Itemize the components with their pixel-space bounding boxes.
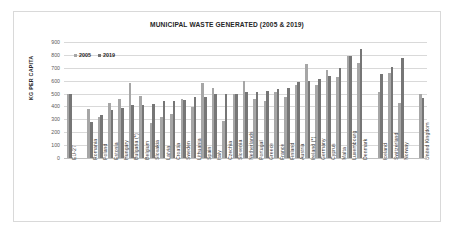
chart-title: MUNICIPAL WASTE GENERATED (2005 & 2019)	[14, 21, 440, 28]
y-axis-tick: 400	[40, 103, 60, 109]
x-axis-tick: Denmark	[362, 139, 368, 160]
chart-legend: 20052019	[74, 52, 115, 58]
y-axis-tick: 300	[40, 116, 60, 122]
x-axis-tick: Italy	[216, 150, 222, 160]
x-axis-tick: Germany	[320, 138, 326, 160]
chart-frame: MUNICIPAL WASTE GENERATED (2005 & 2019) …	[13, 11, 441, 222]
x-axis-tick: France	[279, 144, 285, 160]
bar-group	[282, 42, 292, 158]
x-axis-tick: Switzerland	[393, 133, 399, 160]
x-axis-tick: Slovakia	[154, 140, 160, 160]
legend-entry: 2005	[74, 52, 91, 58]
x-axis-tick: Iceland	[382, 143, 388, 160]
bars-layer	[64, 42, 427, 158]
x-axis-tick: Malta	[341, 147, 347, 160]
x-axis-tick: EU-27	[71, 145, 77, 160]
bar-group	[105, 42, 115, 158]
x-axis-tick: Austria	[299, 143, 305, 160]
x-axis-tick: Czechia	[227, 141, 233, 160]
x-axis-tick: Hungary	[123, 140, 129, 160]
bar-group	[292, 42, 302, 158]
x-axis-tick: Norway	[403, 142, 409, 160]
x-axis-tick: Sweden	[185, 141, 191, 160]
x-axis-tick: Lithuania	[196, 138, 202, 160]
bar-group	[209, 42, 219, 158]
x-axis-tick: Finland	[289, 143, 295, 160]
y-axis-tick: 800	[40, 52, 60, 58]
x-axis-tick: Slovenia	[237, 140, 243, 160]
legend-entry: 2019	[98, 52, 115, 58]
legend-swatch	[74, 54, 77, 57]
y-axis-tick: 600	[40, 78, 60, 84]
x-axis-tick: Luxembourg	[351, 131, 357, 160]
x-axis-tick: United Kingdom	[424, 122, 430, 160]
x-axis-tick: Belgium	[144, 141, 150, 160]
x-axis-tick: Netherlands	[248, 131, 254, 160]
x-axis-tick-labels: EU-27RomaniaPolandEstoniaHungaryBulgaria…	[64, 160, 427, 232]
bar-group	[168, 42, 178, 158]
y-axis-tick: 0	[40, 155, 60, 161]
bar-2019	[339, 68, 342, 158]
x-axis-tick: Ireland (*)	[310, 137, 316, 160]
plot-area	[64, 42, 427, 158]
y-axis-tick: 100	[40, 142, 60, 148]
bar-group	[64, 42, 74, 158]
y-axis-tick: 200	[40, 129, 60, 135]
y-axis-title: KG PER CAPITA	[28, 56, 34, 100]
y-axis-tick: 900	[40, 39, 60, 45]
x-axis-tick: Romania	[92, 139, 98, 160]
legend-label: 2005	[79, 52, 91, 58]
x-axis-tick: Latvia	[165, 146, 171, 160]
x-axis-tick: Spain	[206, 146, 212, 160]
y-axis-tick: 500	[40, 91, 60, 97]
legend-swatch	[98, 54, 101, 57]
x-axis-tick: Bulgaria (*)	[133, 133, 139, 160]
x-axis-tick: Cyprus	[330, 143, 336, 160]
legend-label: 2019	[103, 52, 115, 58]
bar-group	[334, 42, 344, 158]
x-axis-tick: Croatia	[175, 143, 181, 160]
x-axis-tick: Poland	[102, 144, 108, 160]
x-axis-tick: Greece	[268, 143, 274, 160]
x-axis-tick: Estonia	[113, 142, 119, 160]
bar-group	[375, 42, 385, 158]
y-axis-tick-labels: 0100200300400500600700800900	[40, 42, 60, 158]
bar-group	[271, 42, 281, 158]
x-axis-tick: Portugal	[258, 140, 264, 160]
y-axis-tick: 700	[40, 65, 60, 71]
bar-2019	[214, 94, 217, 158]
